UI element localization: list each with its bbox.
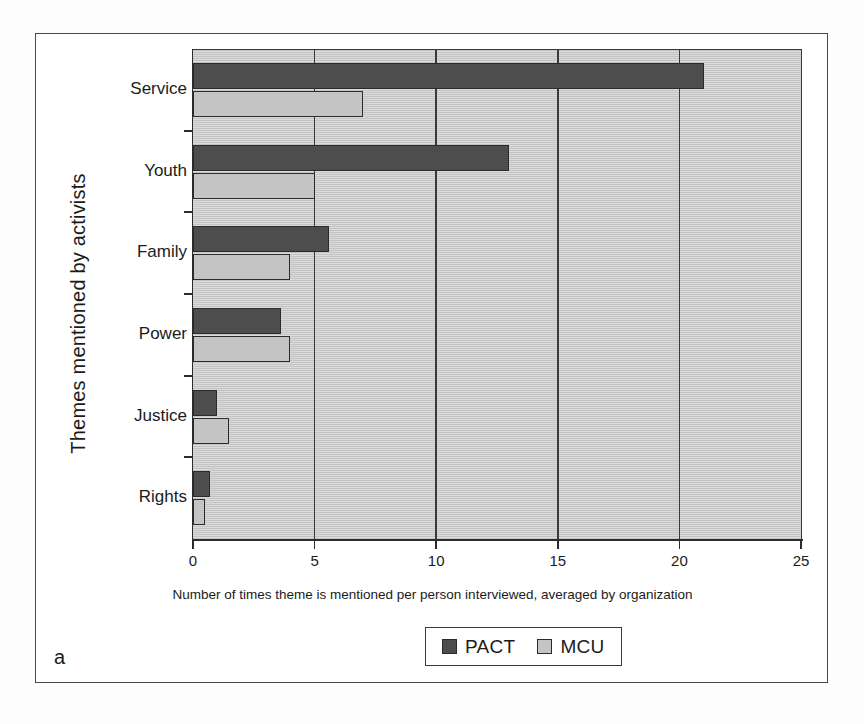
- legend: PACT MCU: [425, 627, 622, 666]
- x-tick-label-20: 20: [649, 552, 709, 569]
- category-label-service: Service: [47, 79, 187, 99]
- gridline-10: [435, 50, 437, 540]
- plot-area: [193, 49, 802, 540]
- x-tick-25: [800, 540, 802, 549]
- y-axis-line: [192, 49, 194, 541]
- x-tick-15: [557, 540, 559, 549]
- bar-pact-justice: [193, 390, 217, 416]
- category-label-family: Family: [47, 242, 187, 262]
- panel-frame: Themes mentioned by activists 0510152025…: [35, 33, 828, 683]
- x-tick-20: [679, 540, 681, 549]
- y-tick-5: [184, 456, 193, 458]
- y-tick-3: [184, 293, 193, 295]
- plot-texture: [193, 50, 801, 540]
- bar-pact-family: [193, 226, 329, 252]
- x-tick-label-15: 15: [528, 552, 588, 569]
- legend-swatch-pact-icon: [442, 639, 457, 654]
- bar-pact-power: [193, 308, 281, 334]
- bar-pact-youth: [193, 145, 509, 171]
- x-axis-line: [192, 539, 803, 541]
- bar-pact-rights: [193, 471, 210, 497]
- x-tick-5: [314, 540, 316, 549]
- bar-mcu-service: [193, 91, 363, 117]
- bar-mcu-justice: [193, 418, 229, 444]
- bar-pact-service: [193, 63, 704, 89]
- x-tick-label-0: 0: [163, 552, 223, 569]
- legend-item-pact: PACT: [442, 636, 515, 658]
- category-label-youth: Youth: [47, 161, 187, 181]
- category-label-rights: Rights: [47, 487, 187, 507]
- x-tick-label-10: 10: [406, 552, 466, 569]
- x-tick-label-5: 5: [285, 552, 345, 569]
- x-tick-0: [192, 540, 194, 549]
- bar-mcu-rights: [193, 499, 205, 525]
- category-label-power: Power: [47, 324, 187, 344]
- panel-letter: a: [54, 646, 65, 669]
- y-tick-2: [184, 211, 193, 213]
- legend-label-mcu: MCU: [560, 636, 604, 658]
- x-tick-10: [435, 540, 437, 549]
- category-label-justice: Justice: [47, 406, 187, 426]
- bar-mcu-youth: [193, 173, 315, 199]
- legend-label-pact: PACT: [465, 636, 515, 658]
- bar-mcu-power: [193, 336, 290, 362]
- x-tick-label-25: 25: [771, 552, 831, 569]
- x-axis-title: Number of times theme is mentioned per p…: [36, 587, 829, 602]
- legend-swatch-mcu-icon: [537, 639, 552, 654]
- gridline-15: [557, 50, 559, 540]
- y-tick-1: [184, 130, 193, 132]
- gridline-5: [314, 50, 316, 540]
- y-tick-4: [184, 375, 193, 377]
- legend-item-mcu: MCU: [537, 636, 604, 658]
- figure-panel: Themes mentioned by activists 0510152025…: [0, 0, 864, 724]
- y-axis-title: Themes mentioned by activists: [67, 134, 90, 494]
- gridline-20: [679, 50, 681, 540]
- bar-mcu-family: [193, 254, 290, 280]
